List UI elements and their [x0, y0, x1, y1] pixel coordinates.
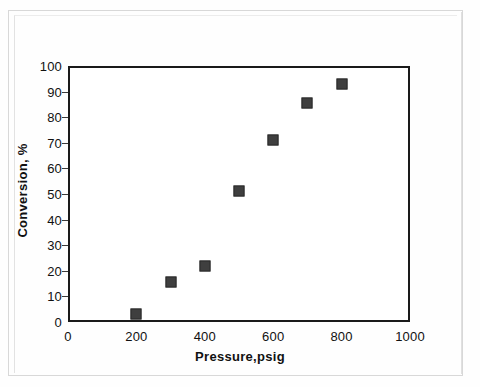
data-point-marker	[131, 309, 142, 320]
y-tick-mark	[62, 271, 68, 272]
x-tick-label: 1000	[380, 329, 440, 344]
data-point-marker	[336, 78, 347, 89]
x-tick-label: 600	[243, 329, 303, 344]
y-tick-mark	[62, 117, 68, 118]
data-point-marker	[199, 260, 210, 271]
x-tick-label: 400	[175, 329, 235, 344]
x-tick-label: 200	[106, 329, 166, 344]
y-tick-mark	[62, 168, 68, 169]
data-point-marker	[302, 98, 313, 109]
x-tick-label: 0	[38, 329, 98, 344]
y-tick-mark	[62, 143, 68, 144]
x-axis-title: Pressure,psig	[0, 349, 480, 364]
y-tick-mark	[62, 220, 68, 221]
y-tick-mark	[62, 245, 68, 246]
y-tick-mark	[62, 92, 68, 93]
data-point-marker	[165, 277, 176, 288]
x-tick-label: 800	[312, 329, 372, 344]
data-point-marker	[268, 135, 279, 146]
scanned-page: 1009080706050403020100 Pressure,psig Con…	[0, 0, 480, 387]
y-tick-mark	[62, 194, 68, 195]
data-point-marker	[234, 186, 245, 197]
y-axis-title: Conversion, %	[15, 111, 30, 271]
y-tick-mark	[62, 296, 68, 297]
scatter-chart: 1009080706050403020100 Pressure,psig Con…	[0, 0, 480, 387]
